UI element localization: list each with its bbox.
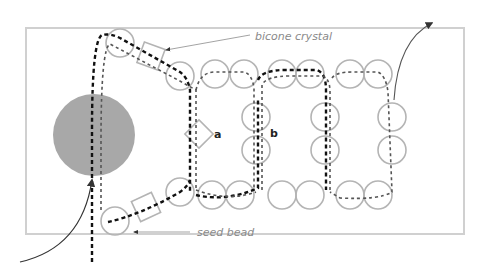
beading-diagram: bicone crystal seed bead a b xyxy=(0,0,483,269)
entry-arrow-icon xyxy=(20,180,92,262)
bicone-leader-icon xyxy=(166,35,250,50)
bicone-crystal-bottom xyxy=(131,192,160,221)
diagram-canvas: bicone crystal seed bead a b xyxy=(0,0,483,269)
bicone-crystal-label: bicone crystal xyxy=(255,30,332,43)
bicone-crystals xyxy=(131,42,213,222)
large-bead-icon xyxy=(53,94,135,176)
seed-bead-label: seed bead xyxy=(197,226,255,239)
point-a-label: a xyxy=(214,128,221,141)
exit-arrow-icon xyxy=(394,23,432,100)
point-b-label: b xyxy=(270,127,278,140)
